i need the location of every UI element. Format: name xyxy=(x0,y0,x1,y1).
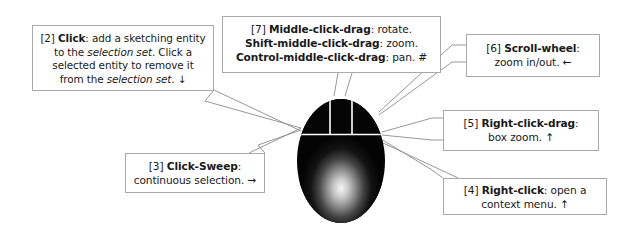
callout-rc-action: Right-click xyxy=(482,184,544,196)
callout-scroll-tag: [6] xyxy=(486,42,504,54)
callout-rcd-action: Right-click-drag xyxy=(481,117,575,129)
callout-click-sweep: [3] Click-Sweep: continuous selection. → xyxy=(125,153,265,193)
mouse-button-zone xyxy=(295,97,387,135)
callout-click-tag: [2] xyxy=(40,32,58,44)
callout-scroll-colon: : xyxy=(576,42,579,54)
callout-middle-click-drag: [7] Middle-click-drag: rotate. Shift-mid… xyxy=(222,16,441,73)
callout-sweep-desc: continuous selection. xyxy=(134,174,248,186)
callout-click-term-2: selection set xyxy=(107,73,172,85)
callout-rc-desc-1: : open a xyxy=(544,184,586,196)
callout-click-term-1: selection set xyxy=(87,46,152,58)
callout-sweep-line-2: continuous selection. → xyxy=(126,174,264,188)
callout-click-desc-4a: from the xyxy=(60,73,107,85)
callout-click-line-3: selected entity to remove it xyxy=(33,59,213,73)
callout-middle-desc-3: : pan. # xyxy=(385,51,427,63)
up-arrow-icon-5: ↑ xyxy=(545,131,554,143)
callout-click-line-4: from the selection set. ↓ xyxy=(33,73,213,87)
callout-rcd-colon: : xyxy=(575,117,578,129)
callout-rc-desc-2: context menu. xyxy=(481,198,560,210)
callout-click: [2] Click: add a sketching entity to the… xyxy=(32,25,214,91)
callout-click-line-2: to the selection set. Click a xyxy=(33,46,213,60)
callout-middle-line-3: Control-middle-click-drag: pan. # xyxy=(223,51,440,65)
callout-scroll-line-1: [6] Scroll-wheel: xyxy=(467,42,599,56)
callout-scroll-desc: zoom in/out. xyxy=(494,56,562,68)
left-arrow-icon: ← xyxy=(563,56,572,68)
mouse-palm-highlight xyxy=(299,120,383,230)
callout-rc-tag: [4] xyxy=(464,184,482,196)
callout-middle-tag: [7] xyxy=(251,23,269,35)
callout-click-desc-1: : add a sketching entity xyxy=(85,32,205,44)
callout-middle-desc-1: : rotate. xyxy=(371,23,412,35)
callout-right-click-drag: [5] Right-click-drag: box zoom. ↑ xyxy=(443,110,599,151)
callout-middle-desc-2: : zoom. xyxy=(379,37,417,49)
callout-rcd-desc: box zoom. xyxy=(488,131,545,143)
callout-rc-line-1: [4] Right-click: open a xyxy=(444,184,606,198)
callout-right-click: [4] Right-click: open a context menu. ↑ xyxy=(443,178,607,215)
callout-scroll-action: Scroll-wheel xyxy=(504,42,576,54)
callout-click-desc-2a: to the xyxy=(54,46,87,58)
callout-middle-line-1: [7] Middle-click-drag: rotate. xyxy=(223,23,440,37)
up-arrow-icon-4: ↑ xyxy=(560,198,569,210)
callout-middle-action-2: Shift-middle-click-drag xyxy=(245,37,379,49)
right-arrow-icon: → xyxy=(248,174,257,186)
callout-rcd-tag: [5] xyxy=(463,117,481,129)
callout-sweep-action: Click-Sweep xyxy=(167,160,238,172)
callout-click-line-1: [2] Click: add a sketching entity xyxy=(33,32,213,46)
callout-rc-line-2: context menu. ↑ xyxy=(444,198,606,212)
callout-sweep-colon: : xyxy=(238,160,241,172)
callout-scroll-wheel: [6] Scroll-wheel: zoom in/out. ← xyxy=(466,34,600,77)
figure-canvas: [2] Click: add a sketching entity to the… xyxy=(0,0,632,241)
down-arrow-icon: ↓ xyxy=(178,73,187,85)
callout-sweep-line-1: [3] Click-Sweep: xyxy=(126,160,264,174)
callout-click-action: Click xyxy=(58,32,85,44)
callout-middle-action-1: Middle-click-drag xyxy=(269,23,371,35)
callout-click-desc-2b: . Click a xyxy=(152,46,192,58)
callout-scroll-line-2: zoom in/out. ← xyxy=(467,56,599,70)
callout-rcd-line-1: [5] Right-click-drag: xyxy=(444,117,598,131)
callout-middle-action-3: Control-middle-click-drag xyxy=(236,51,386,63)
callout-rcd-line-2: box zoom. ↑ xyxy=(444,131,598,145)
callout-middle-line-2: Shift-middle-click-drag: zoom. xyxy=(223,37,440,51)
callout-sweep-tag: [3] xyxy=(149,160,167,172)
